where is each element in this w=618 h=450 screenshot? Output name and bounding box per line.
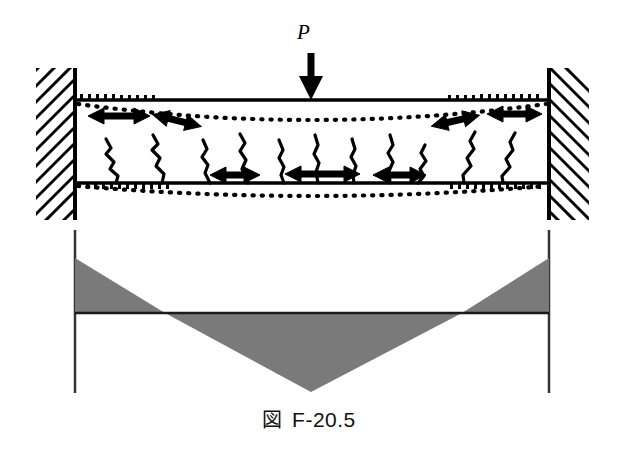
crack [106,139,118,183]
caption-kanji: 図 [262,404,283,433]
right-wall-support [538,40,600,256]
left-wall-support [16,40,86,262]
moment-area-left-hogging [75,258,165,313]
figure-svg [0,0,618,450]
crack [202,140,210,183]
load-arrowhead [299,76,323,100]
crack [279,140,284,183]
caption-number: F-20.5 [292,408,356,432]
figure-caption: 図 F-20.5 [0,404,618,433]
crack [502,133,515,183]
double-arrow-bottom-1 [210,167,260,183]
moment-area-midspan-sagging [165,313,462,392]
double-arrow-bottom-2 [285,166,360,182]
point-load-arrow [299,53,323,100]
double-arrow-top-right-2 [487,106,542,122]
load-label-P: P [297,20,310,45]
crack [152,135,164,183]
double-arrow-top-left-2 [151,107,203,135]
bending-moment-diagram [75,230,549,393]
moment-area-right-hogging [462,258,549,313]
crack [463,132,475,183]
figure-container: P 図 F-20.5 [0,0,618,450]
